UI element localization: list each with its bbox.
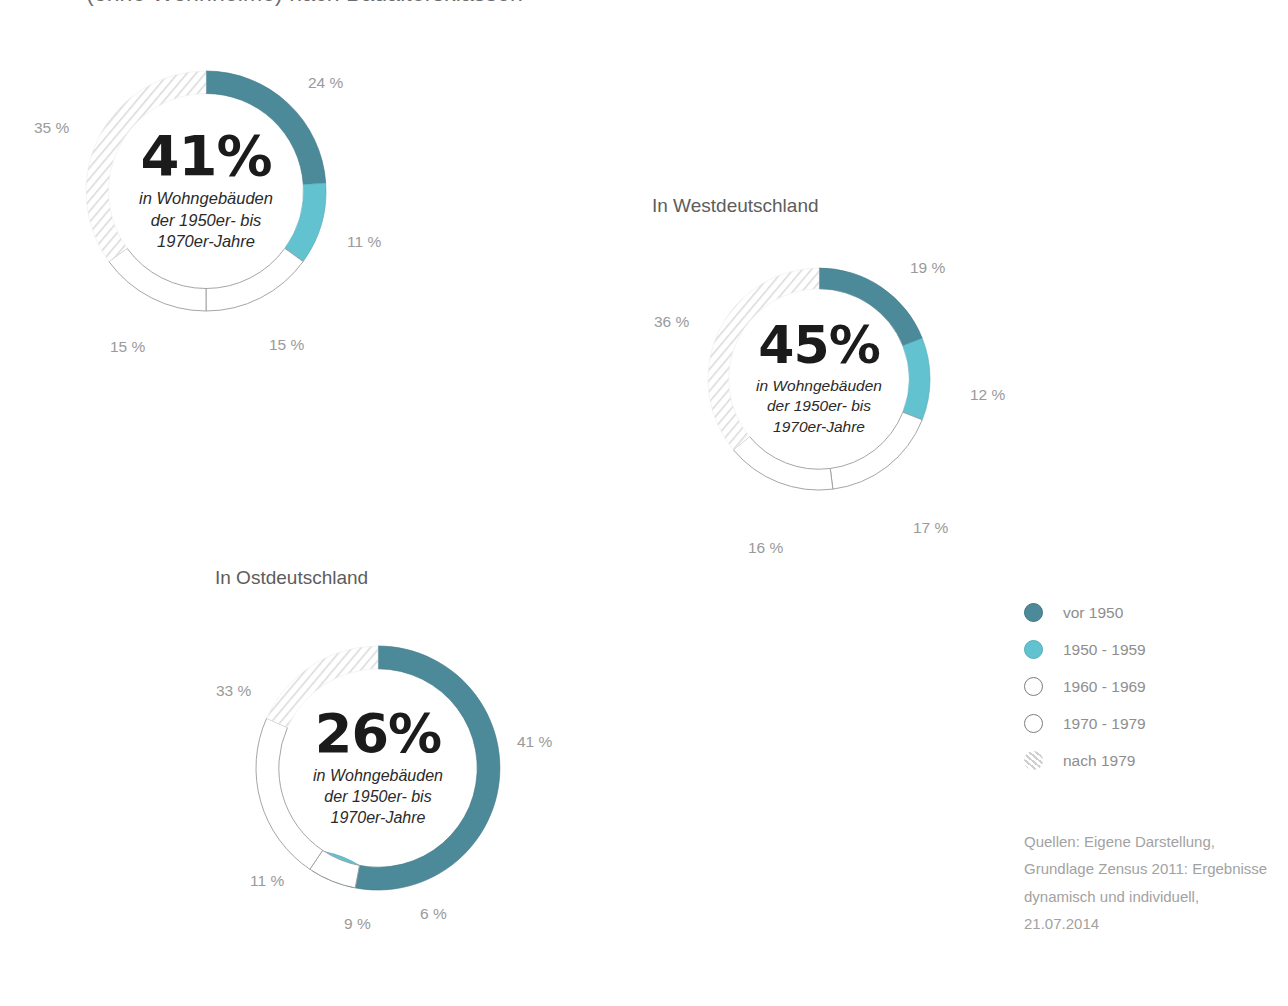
callout-gesamt-nach-1979: 35 % [34,119,69,137]
segment-1950-1959 [903,338,930,420]
segment-nach-1979 [86,71,206,262]
callout-ost-nach-1979: 33 % [216,682,251,700]
segment-1960-1969 [830,412,922,489]
donut-ostdeutschland: 26% in Wohngebäuden der 1950er- bis 1970… [242,632,514,904]
callout-ost-1950-1959: 6 % [420,905,447,923]
callout-ost-1970-1979: 11 % [250,872,284,890]
legend-item-1970-1979[interactable]: 1970 - 1979 [1024,705,1146,742]
legend-label: nach 1979 [1063,752,1135,770]
legend-label: vor 1950 [1063,604,1123,622]
legend-marker-hatched-circle-icon [1024,751,1043,770]
segment-1970-1979 [109,248,206,311]
donut-gesamt-svg [72,57,340,325]
legend-item-1950-1959[interactable]: 1950 - 1959 [1024,631,1146,668]
legend-marker-outlined-circle-icon [1024,714,1043,733]
legend-marker-outlined-circle-icon [1024,677,1043,696]
source-note: Quellen: Eigene Darstellung, Grundlage Z… [1024,828,1274,937]
legend-label: 1970 - 1979 [1063,715,1146,733]
legend-label: 1960 - 1969 [1063,678,1146,696]
callout-ost-vor-1950: 41 % [517,733,552,751]
legend-item-vor-1950[interactable]: vor 1950 [1024,594,1146,631]
callout-west-vor-1950: 19 % [910,259,945,277]
segment-vor-1950 [313,646,500,890]
segment-1950-1959 [285,183,326,261]
segment-nach-1979 [708,268,819,450]
callout-west-1960-1969: 17 % [913,519,948,537]
donut-westdeutschland-svg [695,255,943,503]
callout-ost-1960-1969: 9 % [344,915,371,933]
chart-ostdeutschland: In Ostdeutschland [200,560,630,950]
callout-west-1970-1979: 16 % [748,539,783,557]
callout-gesamt-1960-1969: 15 % [269,336,304,354]
donut-gesamt: 41% in Wohngebäuden der 1950er- bis 1970… [72,57,340,325]
segment-1970-1979 [733,437,832,490]
segment-vor-1950 [819,268,922,346]
callout-west-nach-1979: 36 % [654,313,689,331]
legend-marker-filled-light-teal-circle-icon [1024,640,1043,659]
donut-ostdeutschland-svg [242,632,514,904]
legend-label: 1950 - 1959 [1063,641,1146,659]
legend-item-nach-1979[interactable]: nach 1979 [1024,742,1146,779]
callout-gesamt-1950-1959: 11 % [347,233,381,251]
chart-title-westdeutschland: In Westdeutschland [652,195,819,217]
segment-1960-1969 [206,248,303,311]
callout-west-1950-1959: 12 % [970,386,1005,404]
chart-title-ostdeutschland: In Ostdeutschland [215,567,368,589]
chart-legend: vor 1950 1950 - 1959 1960 - 1969 1970 - … [1024,594,1146,779]
segment-1970-1979 [256,718,323,869]
legend-item-1960-1969[interactable]: 1960 - 1969 [1024,668,1146,705]
donut-westdeutschland: 45% in Wohngebäuden der 1950er- bis 1970… [695,255,943,503]
legend-marker-filled-dark-teal-circle-icon [1024,603,1043,622]
callout-gesamt-1970-1979: 15 % [110,338,145,356]
callout-gesamt-vor-1950: 24 % [308,74,343,92]
segment-nach-1979 [267,646,378,728]
chart-westdeutschland: In Westdeutschland [630,190,1060,570]
chart-gesamt: 41% in Wohngebäuden der 1950er- bis 1970… [0,0,430,380]
